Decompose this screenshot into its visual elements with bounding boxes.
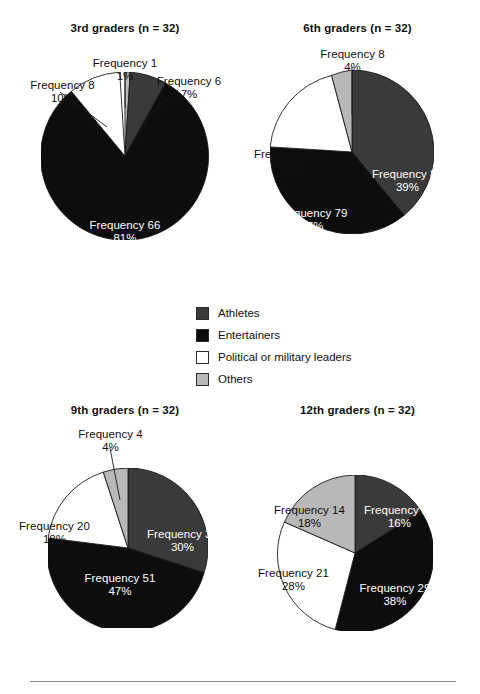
slice-label-entertainers: Frequency 66 81% (55, 219, 195, 244)
slice-label-entertainers: Frequency 51 47% (55, 572, 185, 597)
legend: Athletes Entertainers Political or milit… (196, 303, 352, 391)
slice-label-entertainers-freq: Frequency 51 (85, 572, 156, 584)
slice-label-political-pct: 18% (0, 533, 117, 546)
panel-3rd-graders: 3rd graders (n = 32) Frequency 8 10% (0, 22, 250, 302)
slice-label-athletes-pct: 7% (130, 88, 248, 101)
panel-title-12th-graders: 12th graders (n = 32) (235, 404, 480, 416)
slice-label-entertainers-pct: 81% (55, 232, 195, 245)
panel-6th-graders: 6th graders (n = 32) Frequency 8 4% Freq… (235, 22, 480, 302)
legend-item-athletes: Athletes (196, 303, 352, 323)
slice-label-entertainers-pct: 47% (55, 585, 185, 598)
slice-label-political-freq: Frequency 21 (258, 567, 329, 579)
slice-label-entertainers-freq: Frequency 66 (90, 219, 161, 231)
slice-label-entertainers-freq: Frequency 29 (360, 582, 431, 594)
slice-label-others: Frequency 8 4% (290, 48, 415, 73)
slice-label-political-pct: 20% (227, 161, 352, 174)
slice-label-political: Frequency 20 18% (0, 520, 117, 545)
legend-swatch-political (196, 351, 209, 364)
slice-label-others-freq: Frequency 14 (274, 504, 345, 516)
legend-swatch-entertainers (196, 329, 209, 342)
slice-label-political-pct: 10% (0, 92, 125, 105)
slice-label-entertainers: Frequency 79 37% (247, 207, 377, 232)
slice-label-athletes-freq: Frequency 6 (157, 75, 221, 87)
panel-9th-graders: 9th graders (n = 32) Frequency 4 4% Freq… (0, 404, 250, 674)
legend-swatch-athletes (196, 307, 209, 320)
slice-label-others-freq: Frequency 4 (78, 428, 142, 440)
panel-12th-graders: 12th graders (n = 32) Frequency 14 18% F… (235, 404, 480, 674)
slice-label-political: Frequency 8 10% (0, 79, 125, 104)
slice-label-athletes: Frequency 33 30% (120, 528, 245, 553)
legend-item-others: Others (196, 369, 352, 389)
legend-label-political: Political or military leaders (218, 351, 352, 363)
slice-label-others-pct: 4% (48, 441, 173, 454)
footer-divider (30, 681, 456, 682)
slice-label-political-freq: Frequency 43 (254, 148, 325, 160)
slice-label-political-freq: Frequency 20 (19, 520, 90, 532)
legend-label-entertainers: Entertainers (218, 329, 280, 341)
slice-label-others-pct: 4% (290, 61, 415, 74)
legend-item-entertainers: Entertainers (196, 325, 352, 345)
pie-chart-figure: 3rd graders (n = 32) Frequency 8 10% (0, 0, 480, 694)
legend-label-athletes: Athletes (218, 307, 260, 319)
slice-label-political: Frequency 43 20% (227, 148, 352, 173)
legend-swatch-others (196, 373, 209, 386)
slice-label-athletes-freq: Frequency 12 (364, 504, 435, 516)
slice-label-athletes: Frequency 12 16% (337, 504, 462, 529)
slice-label-others-freq: Frequency 8 (320, 48, 384, 60)
pie-svg-12th-graders (277, 475, 433, 631)
slice-label-athletes-pct: 30% (120, 541, 245, 554)
slice-label-athletes-pct: 16% (337, 517, 462, 530)
slice-label-athletes: Frequency 6 7% (130, 75, 248, 100)
slice-label-others-freq: Frequency 1 (93, 57, 157, 69)
slice-label-entertainers-pct: 37% (247, 220, 377, 233)
slice-label-entertainers: Frequency 29 38% (330, 582, 460, 607)
slice-label-athletes-freq: Frequency 82 (372, 168, 443, 180)
slice-label-others: Frequency 4 4% (48, 428, 173, 453)
slice-label-athletes-pct: 39% (345, 181, 470, 194)
slice-label-athletes-freq: Frequency 33 (147, 528, 218, 540)
legend-item-political: Political or military leaders (196, 347, 352, 367)
slice-label-athletes: Frequency 82 39% (345, 168, 470, 193)
slice-label-entertainers-freq: Frequency 79 (277, 207, 348, 219)
slice-label-entertainers-pct: 38% (330, 595, 460, 608)
legend-label-others: Others (218, 373, 253, 385)
pie-12th-graders (277, 475, 433, 631)
